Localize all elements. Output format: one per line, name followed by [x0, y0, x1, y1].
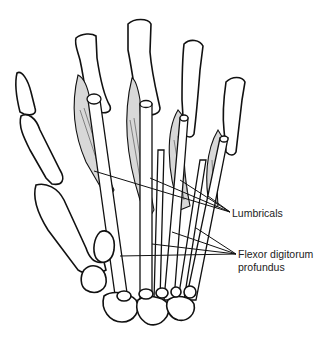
label-fdp-line2: profundus [238, 261, 323, 274]
fdp-tendons [87, 94, 228, 302]
label-lumbricals: Lumbricals [232, 207, 283, 220]
label-fdp-line1: Flexor digitorum [238, 248, 323, 261]
hand-anatomy-figure: Lumbricals Flexor digitorum profundus [0, 0, 325, 342]
hand-illustration [0, 0, 325, 342]
label-flexor-digitorum-profundus: Flexor digitorum profundus [238, 248, 323, 274]
